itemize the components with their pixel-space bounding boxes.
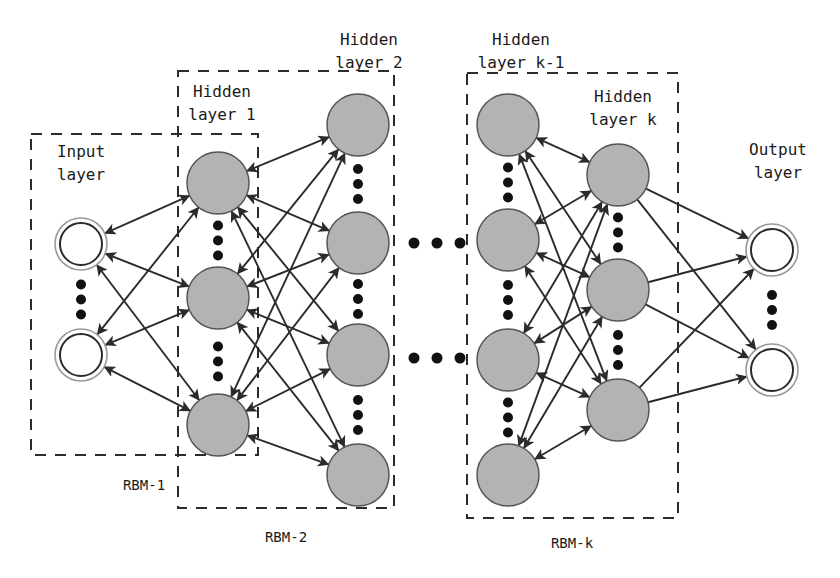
vertical-ellipsis-dot xyxy=(613,330,623,340)
vertical-ellipsis-dot xyxy=(613,213,623,223)
vertical-ellipsis-dot xyxy=(353,179,363,189)
vertical-ellipsis-dot xyxy=(503,428,513,438)
neuron-node-hidden-k-minus-1 xyxy=(477,444,539,506)
vertical-ellipsis-dot xyxy=(503,398,513,408)
vertical-ellipsis-dot xyxy=(353,194,363,204)
rbm-caption-rbm-1: RBM-1 xyxy=(123,477,165,493)
neuron-node-hidden-k xyxy=(587,259,649,321)
horizontal-ellipsis-dot xyxy=(432,238,443,249)
vertical-ellipsis-dot xyxy=(353,279,363,289)
vertical-ellipsis-dot xyxy=(767,290,777,300)
rbm-caption-rbm-k: RBM-k xyxy=(551,535,594,551)
vertical-ellipsis-dot xyxy=(353,410,363,420)
vertical-ellipsis-dot xyxy=(767,320,777,330)
vertical-ellipsis-dot xyxy=(213,372,223,382)
vertical-ellipsis-dot xyxy=(503,163,513,173)
vertical-ellipsis-dot xyxy=(503,413,513,423)
vertical-ellipsis-dot xyxy=(503,178,513,188)
vertical-ellipsis-dot xyxy=(213,342,223,352)
vertical-ellipsis-dot xyxy=(213,251,223,261)
output-layer-label-line1: Output xyxy=(749,140,807,159)
input-layer-label-line2: layer xyxy=(57,165,106,184)
hidden-layer-2-label-line2: layer 2 xyxy=(335,53,402,72)
output-layer-label-line2: layer xyxy=(754,163,803,182)
neuron-node-hidden-k-minus-1 xyxy=(477,329,539,391)
horizontal-ellipsis-dot xyxy=(432,353,443,364)
neuron-node-inner-output xyxy=(751,349,793,391)
vertical-ellipsis-dot xyxy=(613,345,623,355)
vertical-ellipsis-dot xyxy=(613,243,623,253)
neuron-node-hidden-1 xyxy=(187,394,249,456)
vertical-ellipsis-dot xyxy=(353,309,363,319)
vertical-ellipsis-dot xyxy=(76,310,86,320)
horizontal-ellipsis-dot xyxy=(409,238,420,249)
vertical-ellipsis-dot xyxy=(353,294,363,304)
neuron-node-inner-input xyxy=(60,223,102,265)
neuron-node-hidden-k-minus-1 xyxy=(477,209,539,271)
vertical-ellipsis-dot xyxy=(213,221,223,231)
neuron-node-hidden-2 xyxy=(327,212,389,274)
neuron-node-hidden-k xyxy=(587,379,649,441)
vertical-ellipsis-dot xyxy=(353,164,363,174)
neuron-node-hidden-1 xyxy=(187,152,249,214)
vertical-ellipsis-dot xyxy=(353,425,363,435)
neuron-node-hidden-2 xyxy=(327,324,389,386)
dbn-architecture-diagram: Input layer Hidden layer 1 Hidden layer … xyxy=(0,0,840,578)
hidden-layer-k-label-line1: Hidden xyxy=(594,87,652,106)
vertical-ellipsis-dot xyxy=(76,295,86,305)
neuron-node-hidden-2 xyxy=(327,94,389,156)
rbm-caption-rbm-2: RBM-2 xyxy=(265,529,307,545)
vertical-ellipsis-dot xyxy=(213,357,223,367)
vertical-ellipsis-dot xyxy=(767,305,777,315)
vertical-ellipsis-dot xyxy=(353,395,363,405)
vertical-ellipsis-dot xyxy=(503,295,513,305)
vertical-ellipsis-dot xyxy=(503,280,513,290)
hidden-layer-k-minus-1-label-line1: Hidden xyxy=(492,30,550,49)
neuron-node-hidden-1 xyxy=(187,267,249,329)
horizontal-ellipsis-dot xyxy=(455,238,466,249)
horizontal-ellipsis-dot xyxy=(409,353,420,364)
hidden-layer-k-label-line2: layer k xyxy=(589,110,657,129)
vertical-ellipsis-dot xyxy=(503,193,513,203)
hidden-layer-2-label-line1: Hidden xyxy=(340,30,398,49)
vertical-ellipsis-dot xyxy=(213,236,223,246)
hidden-layer-k-minus-1-label-line2: layer k-1 xyxy=(478,53,565,72)
vertical-ellipsis-dot xyxy=(503,310,513,320)
neuron-node-hidden-2 xyxy=(327,444,389,506)
input-layer-label-line1: Input xyxy=(57,142,105,161)
neuron-node-hidden-k xyxy=(587,144,649,206)
hidden-layer-1-label-line2: layer 1 xyxy=(188,105,255,124)
neuron-node-inner-output xyxy=(751,229,793,271)
hidden-layer-1-label-line1: Hidden xyxy=(193,82,251,101)
vertical-ellipsis-dot xyxy=(76,280,86,290)
vertical-ellipsis-dot xyxy=(613,228,623,238)
vertical-ellipsis-dot xyxy=(613,360,623,370)
neuron-node-inner-input xyxy=(60,334,102,376)
neuron-node-hidden-k-minus-1 xyxy=(477,94,539,156)
horizontal-ellipsis-dot xyxy=(455,353,466,364)
